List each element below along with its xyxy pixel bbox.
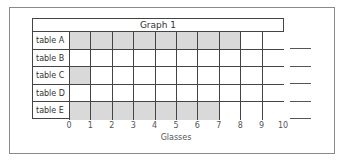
graph-cell	[91, 102, 112, 120]
x-tick-label: 3	[126, 121, 140, 130]
graph-cell	[263, 102, 284, 120]
graph-cell	[198, 67, 219, 84]
graph-cell	[134, 32, 155, 49]
graph-cell	[241, 85, 262, 102]
graph-row: table D	[33, 85, 283, 103]
graph-cell	[220, 50, 241, 67]
graph-cell	[263, 32, 284, 49]
graph-cell	[156, 102, 177, 120]
graph-cell	[263, 85, 284, 102]
graph-cell	[91, 67, 112, 84]
answer-blank-line[interactable]	[290, 66, 311, 67]
graph-cell	[198, 50, 219, 67]
row-label: table C	[33, 67, 70, 84]
graph-cell	[241, 67, 262, 84]
graph-cell	[113, 50, 134, 67]
graph-cell	[113, 102, 134, 120]
graph-cell	[70, 85, 91, 102]
answer-blank-line[interactable]	[290, 48, 311, 49]
answer-blank-line[interactable]	[290, 118, 311, 119]
x-tick-label: 10	[276, 121, 290, 130]
x-axis-label: Glasses	[69, 133, 283, 142]
graph-cell	[241, 32, 262, 49]
graph-cell	[113, 67, 134, 84]
x-tick-label: 1	[83, 121, 97, 130]
graph-row: table B	[33, 50, 283, 68]
graph-cell	[70, 102, 91, 120]
graph-cell	[198, 32, 219, 49]
graph-cell	[156, 67, 177, 84]
answer-blank-line[interactable]	[290, 101, 311, 102]
x-tick-label: 9	[255, 121, 269, 130]
graph-cell	[134, 50, 155, 67]
x-tick-label: 6	[190, 121, 204, 130]
chart-title: Graph 1	[33, 19, 283, 32]
graph-cell	[134, 85, 155, 102]
graph-cell	[70, 67, 91, 84]
graph-cell	[91, 32, 112, 49]
graph-cell	[241, 102, 262, 120]
graph-cell	[177, 85, 198, 102]
graph-cell	[220, 102, 241, 120]
answer-blank-line[interactable]	[290, 83, 311, 84]
graph-cell	[177, 32, 198, 49]
graph-cell	[177, 50, 198, 67]
x-tick-label: 2	[105, 121, 119, 130]
x-tick-label: 0	[62, 121, 76, 130]
row-label: table D	[33, 85, 70, 102]
graph-cell	[134, 102, 155, 120]
graph-cell	[198, 85, 219, 102]
graph-cell	[263, 67, 284, 84]
row-label: table E	[33, 102, 70, 120]
graph-cell	[220, 67, 241, 84]
graph-row: table E	[33, 102, 283, 120]
graph-row: table C	[33, 67, 283, 85]
graph-cell	[220, 32, 241, 49]
graph-cell	[70, 50, 91, 67]
graph-cell	[113, 32, 134, 49]
x-tick-label: 8	[233, 121, 247, 130]
graph-cell	[91, 85, 112, 102]
graph-cell	[177, 102, 198, 120]
graph-cell	[198, 102, 219, 120]
graph-cell	[177, 67, 198, 84]
bar-graph-grid: Graph 1 table Atable Btable Ctable Dtabl…	[32, 18, 284, 119]
graph-cell	[241, 50, 262, 67]
graph-cell	[70, 32, 91, 49]
graph-cell	[134, 67, 155, 84]
graph-cell	[91, 50, 112, 67]
x-tick-label: 4	[148, 121, 162, 130]
graph-cell	[263, 50, 284, 67]
row-label: table A	[33, 32, 70, 49]
row-label: table B	[33, 50, 70, 67]
x-tick-label: 5	[169, 121, 183, 130]
graph-cell	[156, 32, 177, 49]
graph-cell	[156, 85, 177, 102]
x-tick-label: 7	[212, 121, 226, 130]
graph-cell	[113, 85, 134, 102]
graph-cell	[156, 50, 177, 67]
graph-row: table A	[33, 32, 283, 50]
graph-cell	[220, 85, 241, 102]
